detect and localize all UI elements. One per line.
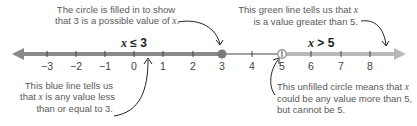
annotation-line: that x is any value less [20,91,113,103]
tick-label: 6 [301,60,321,72]
annotation-line: The circle is filled in to show [55,4,177,15]
operator: ≤ [130,36,137,50]
tick-label: 2 [183,60,203,72]
annotation-line: that 3 is a possible value of x. [55,15,177,27]
text: that 3 is a possible value of [55,15,172,26]
variable: x [121,36,127,50]
annotation-open-circle: This unfilled circle means that x could … [277,81,412,115]
annotation-line: This blue line tells us [20,80,113,91]
arrow-to-closed-circle-icon [178,21,220,44]
tick-label: −3 [37,60,57,72]
tick-label: −1 [95,60,115,72]
tick-label: 4 [242,60,262,72]
tick-label: 5 [272,60,292,72]
tick-label: 0 [124,60,144,72]
text: . [176,15,179,26]
tick-label: 3 [212,60,232,72]
annotation-line: could be any value more than 5, [277,93,412,104]
variable: x [308,36,314,50]
text: is any value less [43,91,115,102]
operator: > [317,36,324,50]
value: 5 [328,36,335,50]
annotation-line: This green line tells us that x [236,4,358,16]
annotation-blue-line: This blue line tells us that x is any va… [20,80,113,114]
tick-label: −2 [66,60,86,72]
inequality-label-left: x ≤ 3 [121,36,147,51]
right-arrowhead-icon [394,48,406,60]
annotation-line: but cannot be 5. [277,104,412,115]
annotation-line: is a value greater than 5. [236,16,358,27]
annotation-line: This unfilled circle means that x [277,81,412,93]
tick-label: 1 [153,60,173,72]
inequality-label-right: x > 5 [308,36,334,51]
value: 3 [140,36,147,50]
text: This unfilled circle means that [277,81,405,92]
left-arrowhead-icon [12,48,24,60]
text: This green line tells us that [238,4,354,15]
tick-label: 8 [360,60,380,72]
variable: x [354,5,358,15]
annotation-green-line: This green line tells us that x is a val… [236,4,358,27]
text: that [20,91,39,102]
annotation-closed-circle: The circle is filled in to show that 3 i… [55,4,177,27]
closed-circle-icon [218,50,227,59]
annotation-line: than or equal to 3. [20,103,113,114]
tick-label: 7 [331,60,351,72]
variable: x [405,82,409,92]
